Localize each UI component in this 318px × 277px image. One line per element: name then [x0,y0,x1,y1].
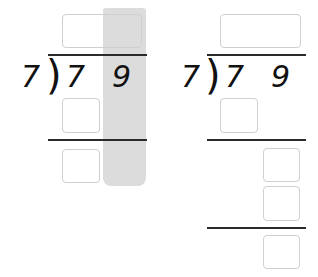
right-dividend-ones: 9 [271,62,290,92]
right-subtraction-line-1 [207,139,306,141]
left-division-bracket: ) [46,55,62,95]
right-subtraction-line-2 [207,227,306,229]
right-divisor: 7 [181,62,200,92]
left-division-bar [48,54,147,56]
left-dividend-ones: 9 [112,62,131,92]
left-difference-input[interactable] [62,149,100,183]
right-division-bracket: ) [205,55,221,95]
right-dividend-tens: 7 [225,62,244,92]
left-dividend-tens: 7 [66,62,85,92]
left-subtraction-line [48,139,147,141]
right-quotient-input[interactable] [220,14,301,48]
right-bring-down-input-2[interactable] [263,186,300,221]
left-product-input[interactable] [62,98,100,133]
left-quotient-input[interactable] [62,14,142,48]
right-remainder-input[interactable] [263,235,300,269]
right-product-input[interactable] [220,98,258,133]
right-bring-down-input-1[interactable] [263,148,300,182]
left-divisor: 7 [21,62,40,92]
right-division-bar [207,54,306,56]
